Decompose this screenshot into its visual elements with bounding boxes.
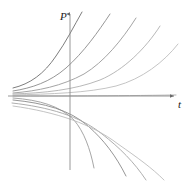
solution-curves-plot: P t xyxy=(0,0,190,181)
figure-container: P t xyxy=(0,0,190,181)
solution-curve xyxy=(13,26,160,94)
solution-curve xyxy=(12,103,146,180)
solution-curve xyxy=(13,106,164,180)
solution-curve xyxy=(13,44,178,95)
solution-curve xyxy=(13,14,110,91)
solution-curve xyxy=(13,12,82,88)
t-axis-label: t xyxy=(178,98,182,110)
solution-curve xyxy=(13,18,136,93)
axes xyxy=(8,14,174,170)
solution-curve xyxy=(13,98,94,168)
p-axis-label: P xyxy=(59,10,67,22)
